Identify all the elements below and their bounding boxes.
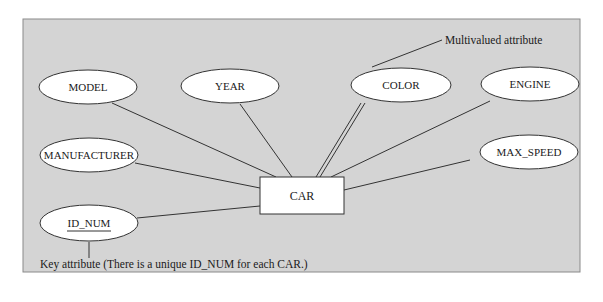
attribute-id-num-label: ID_NUM [68,217,111,229]
attribute-year-label: YEAR [215,80,246,92]
attribute-model-label: MODEL [68,81,107,93]
multivalued-annotation: Multivalued attribute [445,34,542,46]
attribute-engine-label: ENGINE [510,78,551,90]
attribute-manufacturer-label: MANUFACTURER [44,149,135,161]
entity-car-label: CAR [290,189,315,203]
key-annotation: Key attribute (There is a unique ID_NUM … [40,258,308,271]
er-diagram: MODEL YEAR COLOR ENGINE MANUFACTURER MAX… [0,0,603,302]
attribute-max-speed-label: MAX_SPEED [497,146,562,158]
attribute-color-label: COLOR [382,79,420,91]
